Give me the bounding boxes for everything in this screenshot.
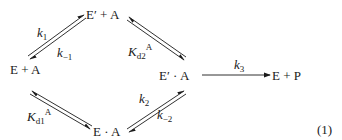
label-k-minus-2: k−2: [157, 108, 172, 124]
arrow-k2-forward: [127, 91, 184, 129]
label-k3: k3: [234, 58, 244, 74]
species-e-plus-a: E + A: [10, 63, 40, 76]
species-e-prime-plus-a: E′ + A: [86, 8, 119, 21]
label-kd1a: Kd1A: [27, 108, 51, 126]
label-k-minus-1: k−1: [57, 46, 72, 62]
equation-number: (1): [317, 123, 332, 136]
species-e-dot-a: E · A: [93, 125, 120, 138]
label-k2: k2: [139, 92, 149, 108]
label-k1: k1: [37, 26, 47, 42]
species-e-prime-dot-a: E′ · A: [159, 69, 189, 82]
label-kd2a: Kd2A: [128, 43, 152, 61]
species-e-plus-p: E + P: [272, 69, 301, 82]
